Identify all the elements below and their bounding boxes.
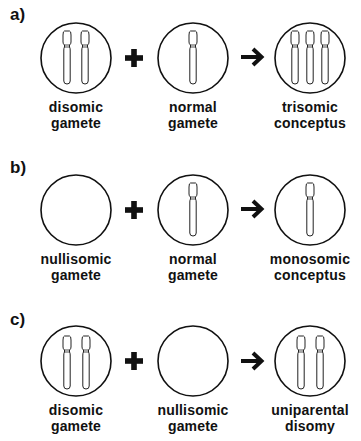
uniparental-disomy-circle <box>275 326 345 396</box>
caption-line2: gamete <box>138 267 248 283</box>
disomic-gamete-circle <box>41 23 111 93</box>
plus-icon <box>125 49 143 67</box>
caption-nullisomic-gamete: nullisomic gamete <box>21 251 131 283</box>
caption-trisomic-conceptus: trisomic conceptus <box>255 99 361 131</box>
diagram-canvas <box>0 0 361 441</box>
plus-icon <box>125 201 143 219</box>
caption-line2: gamete <box>21 115 131 131</box>
panel-c <box>41 326 345 396</box>
caption-disomic-gamete: disomic gamete <box>21 99 131 131</box>
caption-normal-gamete: normal gamete <box>138 251 248 283</box>
caption-nullisomic-gamete: nullisomic gamete <box>138 402 248 434</box>
panel-b <box>41 175 345 245</box>
caption-line2: gamete <box>21 267 131 283</box>
arrow-right-icon <box>241 49 262 65</box>
caption-line2: disomy <box>255 418 361 434</box>
arrow-right-icon <box>241 353 262 369</box>
caption-disomic-gamete: disomic gamete <box>21 402 131 434</box>
caption-line1: monosomic <box>255 251 361 267</box>
panel-label-c: c) <box>10 310 25 330</box>
caption-uniparental-disomy: uniparental disomy <box>255 402 361 434</box>
caption-line1: nullisomic <box>138 402 248 418</box>
caption-line1: nullisomic <box>21 251 131 267</box>
panel-a <box>41 23 345 93</box>
caption-line1: uniparental <box>255 402 361 418</box>
caption-line2: conceptus <box>255 267 361 283</box>
caption-monosomic-conceptus: monosomic conceptus <box>255 251 361 283</box>
plus-icon <box>125 352 143 370</box>
arrow-right-icon <box>241 201 262 217</box>
disomic-gamete-circle <box>41 326 111 396</box>
caption-line2: conceptus <box>255 115 361 131</box>
caption-line2: gamete <box>21 418 131 434</box>
nullisomic-gamete-circle <box>41 175 111 245</box>
nullisomic-gamete-circle <box>158 326 228 396</box>
caption-line2: gamete <box>138 418 248 434</box>
panel-label-b: b) <box>10 158 26 178</box>
caption-line1: disomic <box>21 402 131 418</box>
panel-label-a: a) <box>10 5 25 25</box>
caption-line1: normal <box>138 251 248 267</box>
caption-line1: disomic <box>21 99 131 115</box>
caption-normal-gamete: normal gamete <box>138 99 248 131</box>
caption-line1: trisomic <box>255 99 361 115</box>
caption-line1: normal <box>138 99 248 115</box>
caption-line2: gamete <box>138 115 248 131</box>
